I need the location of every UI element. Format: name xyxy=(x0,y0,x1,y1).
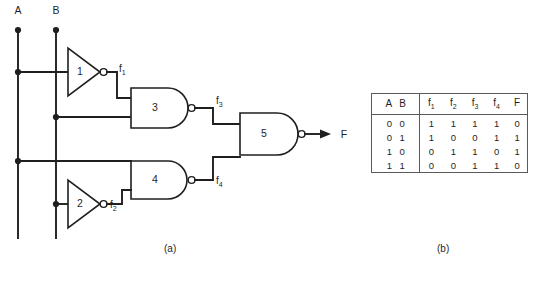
cell-f4: 1 xyxy=(486,115,508,132)
terminal-dot-a xyxy=(15,27,21,33)
terminal-dot-b xyxy=(53,27,59,33)
table-row: 0 0 1 1 1 1 0 xyxy=(372,115,527,132)
logic-circuit-figure: 1 3 4 2 5 A B F f1 xyxy=(0,0,537,281)
input-label-b: B xyxy=(52,4,59,16)
cell-F: 1 xyxy=(507,145,527,159)
gate-5-label: 5 xyxy=(261,127,267,139)
column-header-inputs: A B xyxy=(372,94,420,115)
truth-table: A B f1 f2 f3 f4 F 0 0 1 1 1 1 0 xyxy=(372,94,527,173)
signal-label-f4: f4 xyxy=(216,175,223,188)
cell-f2: 1 xyxy=(443,115,465,132)
column-header-F: F xyxy=(507,94,527,115)
cell-inputs: 0 0 xyxy=(372,115,420,132)
truth-table-container: A B f1 f2 f3 f4 F 0 0 1 1 1 1 0 xyxy=(371,93,528,173)
column-header-f2: f2 xyxy=(443,94,465,115)
gate-4-label: 4 xyxy=(152,173,158,185)
truth-table-header-row: A B f1 f2 f3 f4 F xyxy=(372,94,527,115)
output-arrowhead-icon xyxy=(320,130,331,139)
cell-f3: 1 xyxy=(464,145,486,159)
gate-5-output-bubble xyxy=(298,131,305,138)
gate-3-label: 3 xyxy=(152,101,158,113)
gate-5-nand-body xyxy=(240,113,298,155)
cell-f4: 1 xyxy=(486,159,508,173)
column-header-f4: f4 xyxy=(486,94,508,115)
cell-F: 1 xyxy=(507,131,527,145)
caption-b: (b) xyxy=(437,243,449,254)
cell-inputs: 0 1 xyxy=(372,131,420,145)
cell-F: 0 xyxy=(507,115,527,132)
cell-f1: 1 xyxy=(420,115,443,132)
wire-f3-to-nand5 xyxy=(195,108,240,124)
cell-f1: 0 xyxy=(420,145,443,159)
cell-f1: 0 xyxy=(420,159,443,173)
cell-F: 0 xyxy=(507,159,527,173)
cell-f3: 1 xyxy=(464,115,486,132)
cell-f2: 0 xyxy=(443,159,465,173)
cell-f3: 1 xyxy=(464,159,486,173)
gate-3-nand-body xyxy=(131,88,188,128)
cell-f2: 1 xyxy=(443,145,465,159)
gate-1-output-bubble xyxy=(100,69,107,76)
caption-a: (a) xyxy=(164,243,176,254)
gate-2-inverter-body xyxy=(68,180,100,228)
junction-b-inv2 xyxy=(53,201,59,207)
gate-4-output-bubble xyxy=(188,177,195,184)
table-row: 1 0 0 1 1 0 1 xyxy=(372,145,527,159)
cell-inputs: 1 0 xyxy=(372,145,420,159)
wire-f1-to-nand3 xyxy=(107,72,131,98)
column-header-f1: f1 xyxy=(420,94,443,115)
cell-f3: 0 xyxy=(464,131,486,145)
cell-f1: 1 xyxy=(420,131,443,145)
cell-f2: 0 xyxy=(443,131,465,145)
gate-2-output-bubble xyxy=(100,201,107,208)
signal-label-f1: f1 xyxy=(119,63,126,76)
junction-a-inv1 xyxy=(15,69,21,75)
table-row: 1 1 0 0 1 1 0 xyxy=(372,159,527,173)
gate-1-label: 1 xyxy=(77,65,83,77)
truth-table-body: 0 0 1 1 1 1 0 0 1 1 0 0 1 1 1 0 0 xyxy=(372,115,527,174)
signal-label-f3: f3 xyxy=(216,95,223,108)
junction-a-nand4 xyxy=(15,158,21,164)
signal-label-f2: f2 xyxy=(110,199,117,212)
cell-f4: 1 xyxy=(486,131,508,145)
output-label-f: F xyxy=(341,128,347,140)
gate-2-label: 2 xyxy=(77,197,83,209)
gate-4-nand-body xyxy=(131,161,187,199)
gate-3-output-bubble xyxy=(188,105,195,112)
cell-f4: 0 xyxy=(486,145,508,159)
truth-table-head: A B f1 f2 f3 f4 F xyxy=(372,94,527,115)
column-header-f3: f3 xyxy=(464,94,486,115)
gate-1-inverter-body xyxy=(68,48,100,96)
table-row: 0 1 1 0 0 1 1 xyxy=(372,131,527,145)
junction-b-nand3 xyxy=(53,114,59,120)
cell-inputs: 1 1 xyxy=(372,159,420,173)
input-label-a: A xyxy=(14,4,21,16)
